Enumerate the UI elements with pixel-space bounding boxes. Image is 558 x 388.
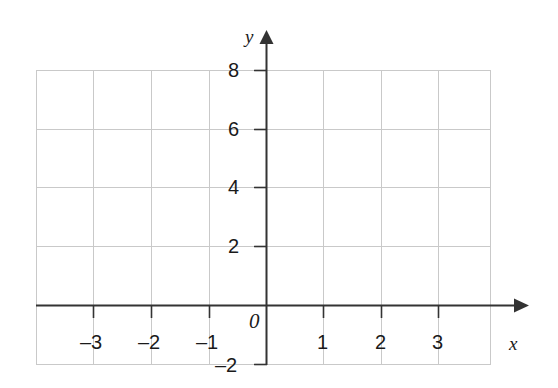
x-axis-label: x [509, 334, 517, 353]
y-tick-label-6: 6 [228, 119, 239, 139]
grid-lines [36, 70, 491, 365]
origin-label: 0 [249, 311, 260, 332]
x-tick-label-minus-1: –1 [196, 332, 218, 352]
plot-canvas [0, 0, 558, 388]
x-tick-label-1: 1 [317, 332, 328, 352]
x-tick-label-minus-2: –2 [138, 332, 160, 352]
x-tick-label-minus-3: –3 [80, 332, 102, 352]
y-axis [260, 30, 274, 365]
x-tick-label-3: 3 [432, 332, 443, 352]
x-tick-label-2: 2 [375, 332, 386, 352]
y-tick-label-4: 4 [228, 177, 239, 197]
y-tick-label-2: 2 [228, 236, 239, 256]
coordinate-grid-figure: 8 6 4 2 –2 –3 –2 –1 1 2 3 0 y x [0, 0, 558, 388]
x-axis [36, 299, 529, 313]
y-axis-label: y [245, 27, 253, 46]
y-tick-label-8: 8 [228, 60, 239, 80]
y-tick-label-minus-2: –2 [215, 355, 237, 375]
